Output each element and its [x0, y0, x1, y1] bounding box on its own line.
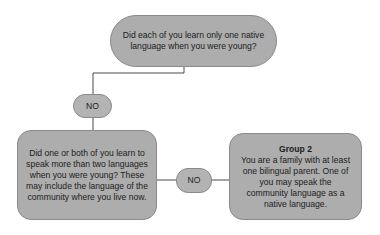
top-question-node: Did each of you learn only one native la…	[110, 15, 277, 67]
answer-no-2-node: NO	[176, 168, 212, 193]
answer-no-1-label: NO	[86, 101, 99, 112]
answer-no-1-node: NO	[73, 94, 112, 118]
result-text: You are a family with at least one bilin…	[238, 155, 353, 210]
left-question-text: Did one or both of you learn to speak mo…	[26, 148, 148, 203]
result-title: Group 2	[279, 144, 312, 155]
result-group-node: Group 2 You are a family with at least o…	[229, 133, 362, 220]
edge-top-to-no1	[93, 67, 184, 94]
left-question-node: Did one or both of you learn to speak mo…	[17, 130, 157, 220]
top-question-text: Did each of you learn only one native la…	[121, 30, 266, 52]
answer-no-2-label: NO	[188, 175, 201, 186]
